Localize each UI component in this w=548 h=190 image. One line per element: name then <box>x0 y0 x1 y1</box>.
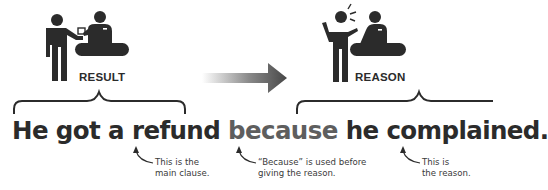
example-sentence: He got a refund because he complained. <box>12 116 548 145</box>
annotation-main-clause: This is the main clause. <box>155 157 210 179</box>
reason-clause: he complained. <box>346 116 548 145</box>
conjunction-word: because <box>228 116 338 145</box>
left-brace <box>14 92 185 114</box>
arrow-right-icon <box>202 63 287 93</box>
annotation-reason: This is the reason. <box>422 157 471 179</box>
main-clause: He got a refund <box>12 116 220 145</box>
pointer-arrow-reason <box>400 146 420 163</box>
right-brace <box>297 92 493 114</box>
pointer-arrow-because <box>236 146 256 163</box>
annotation-because: “Because” is used before giving the reas… <box>258 157 366 179</box>
reason-label: REASON <box>355 71 405 83</box>
pointer-arrow-main-clause <box>133 146 153 163</box>
result-label: RESULT <box>79 71 125 83</box>
